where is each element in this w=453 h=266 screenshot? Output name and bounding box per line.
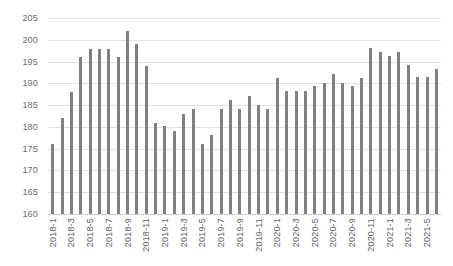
x-axis-tick-label: 2021-1 (385, 218, 395, 247)
bar-slot (226, 18, 235, 214)
bar-slot (235, 18, 244, 214)
x-axis-slot: 2019-3 (179, 216, 188, 266)
bar (304, 91, 307, 214)
bar-slot (282, 18, 291, 214)
y-axis-tick-label: 180 (22, 122, 38, 132)
bar-slot (329, 18, 338, 214)
x-axis-slot: 2019-7 (216, 216, 225, 266)
bar-slot (114, 18, 123, 214)
x-axis-tick-label: 2020-3 (291, 218, 301, 247)
x-axis-tick-label: 2019-7 (216, 218, 226, 247)
y-axis-tick-label: 175 (22, 144, 38, 154)
bar (98, 49, 101, 215)
bar-slot (263, 18, 272, 214)
bar-slot (104, 18, 113, 214)
x-axis-tick-label: 2018-9 (123, 218, 133, 247)
bar-slot (245, 18, 254, 214)
x-axis-slot (226, 216, 235, 266)
x-axis-slot: 2018-1 (48, 216, 57, 266)
bar (313, 86, 316, 214)
x-axis-labels: 2018-12018-32018-52018-72018-92018-11201… (48, 216, 441, 266)
x-axis-slot: 2021-3 (404, 216, 413, 266)
bar (135, 44, 138, 214)
bar-slot (95, 18, 104, 214)
bar (285, 91, 288, 214)
x-axis-slot (376, 216, 385, 266)
bar-slot (301, 18, 310, 214)
y-axis-tick-label: 160 (22, 209, 38, 219)
x-axis-tick-label: 2019-9 (235, 218, 245, 247)
bar (51, 144, 54, 214)
bar (79, 57, 82, 214)
y-axis-tick-label: 185 (22, 100, 38, 110)
bar-slot (170, 18, 179, 214)
bar-slot (216, 18, 225, 214)
x-axis-slot (170, 216, 179, 266)
bar-slot (319, 18, 328, 214)
bar (192, 109, 195, 214)
bar-slot (291, 18, 300, 214)
x-axis-slot: 2019-5 (198, 216, 207, 266)
bar-slot (432, 18, 441, 214)
x-axis-slot: 2018-3 (67, 216, 76, 266)
x-axis-slot: 2019-11 (254, 216, 263, 266)
bar (220, 109, 223, 214)
x-axis-tick-label: 2021-3 (403, 218, 413, 247)
bar (416, 77, 419, 214)
bar-slot (310, 18, 319, 214)
bar-slot (132, 18, 141, 214)
bar (126, 31, 129, 214)
x-axis-slot (357, 216, 366, 266)
bar-slot (57, 18, 66, 214)
bar-slot (179, 18, 188, 214)
x-axis-slot: 2019-9 (235, 216, 244, 266)
bar (351, 86, 354, 214)
bar-slot (348, 18, 357, 214)
x-axis-tick-label: 2018-11 (141, 218, 151, 252)
bar-slot (357, 18, 366, 214)
bar (210, 135, 213, 214)
bar (248, 96, 251, 214)
bar (397, 52, 400, 214)
x-axis-tick-label: 2019-5 (197, 218, 207, 247)
bar-slot (394, 18, 403, 214)
x-axis-slot: 2020-11 (366, 216, 375, 266)
bar (407, 65, 410, 214)
bar (379, 52, 382, 214)
bar (276, 78, 279, 214)
bar-slot (151, 18, 160, 214)
bar-slot (366, 18, 375, 214)
x-axis-slot (245, 216, 254, 266)
x-axis-tick-label: 2020-1 (272, 218, 282, 247)
x-axis-slot: 2018-5 (85, 216, 94, 266)
x-axis-slot: 2018-7 (104, 216, 113, 266)
x-axis-tick-label: 2020-5 (310, 218, 320, 247)
bar (257, 105, 260, 214)
x-axis-tick-label: 2018-5 (85, 218, 95, 247)
x-axis-slot: 2020-5 (310, 216, 319, 266)
bar (341, 83, 344, 214)
bar (173, 131, 176, 214)
x-axis-slot: 2020-7 (329, 216, 338, 266)
x-axis-tick-label: 2018-3 (66, 218, 76, 247)
x-axis-tick-label: 2020-9 (347, 218, 357, 247)
bar (154, 123, 157, 214)
x-axis-slot (301, 216, 310, 266)
bar (182, 114, 185, 214)
x-axis-tick-label: 2021-5 (422, 218, 432, 247)
bar-slot (413, 18, 422, 214)
bar-slot (376, 18, 385, 214)
y-axis-tick-label: 195 (22, 57, 38, 67)
bar-slot (48, 18, 57, 214)
bar (145, 66, 148, 214)
bar (266, 109, 269, 214)
bar-slot (160, 18, 169, 214)
bar-slot (338, 18, 347, 214)
bar-slot (254, 18, 263, 214)
bar (89, 49, 92, 215)
bar-slot (85, 18, 94, 214)
bar-slot (385, 18, 394, 214)
bar-slot (67, 18, 76, 214)
x-axis-slot: 2020-9 (348, 216, 357, 266)
x-axis-tick-label: 2020-11 (366, 218, 376, 252)
